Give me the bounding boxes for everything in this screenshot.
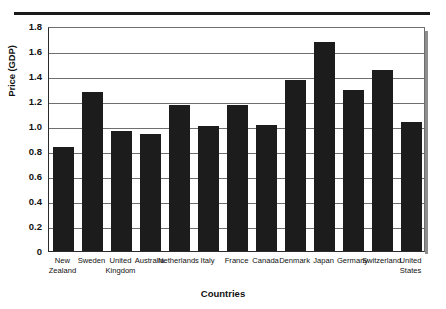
bar-series bbox=[49, 28, 424, 251]
y-axis-tick-label: 1.8 bbox=[29, 22, 42, 32]
bar bbox=[82, 92, 102, 251]
bar bbox=[140, 134, 160, 252]
y-axis-tick-label: 0.4 bbox=[29, 197, 42, 207]
bar bbox=[256, 125, 276, 251]
bar bbox=[53, 147, 73, 251]
bar bbox=[401, 122, 421, 251]
plot-area bbox=[48, 27, 425, 252]
y-axis-tick-label: 0.8 bbox=[29, 147, 42, 157]
y-axis-tick-label: 0.2 bbox=[29, 222, 42, 232]
bar bbox=[372, 70, 392, 251]
y-axis-tick-label: 1.6 bbox=[29, 47, 42, 57]
x-axis-tick-labels: New ZealandSwedenUnited KingdomAustralia… bbox=[48, 256, 425, 284]
y-axis-tick-label: 1.2 bbox=[29, 97, 42, 107]
bar bbox=[285, 80, 305, 251]
top-divider-rule bbox=[14, 12, 430, 15]
x-axis-title: Countries bbox=[0, 288, 446, 299]
bar bbox=[343, 90, 363, 251]
bar bbox=[314, 42, 334, 251]
plot-area-shadow bbox=[425, 31, 428, 254]
y-axis-tick-label: 1.0 bbox=[29, 122, 42, 132]
y-axis-tick-label: 1.4 bbox=[29, 72, 42, 82]
y-axis-tick-label: 0.6 bbox=[29, 172, 42, 182]
x-axis-tick-label: United States bbox=[380, 256, 441, 275]
bar-chart-figure: Price (GDP) 1.81.61.41.21.00.80.60.40.20… bbox=[0, 0, 446, 309]
bar bbox=[111, 131, 131, 251]
bar bbox=[169, 105, 189, 251]
bar bbox=[227, 105, 247, 251]
bar bbox=[198, 126, 218, 251]
